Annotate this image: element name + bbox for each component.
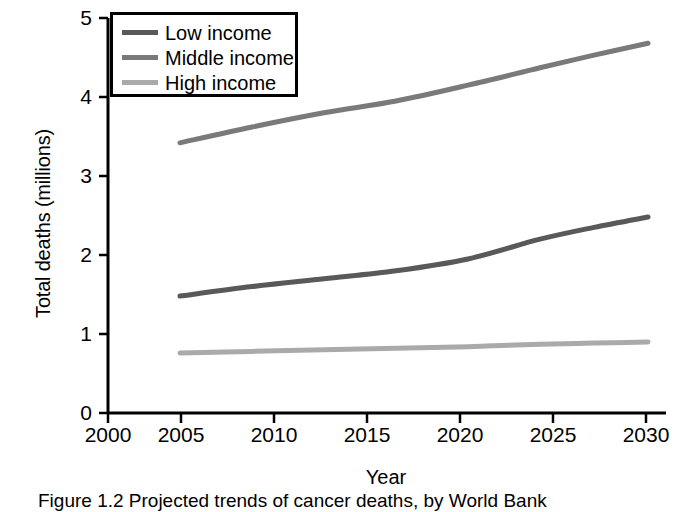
y-tick-label-1: 1 xyxy=(52,323,92,344)
x-tick-label-2000: 2000 xyxy=(68,424,148,445)
x-tick-label-2030: 2030 xyxy=(606,424,686,445)
series-line-high-income xyxy=(180,342,648,353)
legend-swatch-high-income xyxy=(122,80,158,85)
x-axis-title: Year xyxy=(108,466,664,489)
legend-item-low-income: Low income xyxy=(122,20,295,45)
y-tick-label-5: 5 xyxy=(52,7,92,28)
x-tick-label-2020: 2020 xyxy=(420,424,500,445)
x-tick-label-2025: 2025 xyxy=(513,424,593,445)
chart-legend: Low income Middle income High income xyxy=(110,12,298,97)
y-axis-title: Total deaths (millions) xyxy=(32,59,55,389)
y-tick-label-3: 3 xyxy=(52,165,92,186)
legend-label-low-income: Low income xyxy=(165,23,272,43)
figure-caption: Figure 1.2 Projected trends of cancer de… xyxy=(38,489,678,512)
legend-label-high-income: High income xyxy=(165,73,276,93)
y-tick-label-4: 4 xyxy=(52,86,92,107)
x-tick-label-2015: 2015 xyxy=(327,424,407,445)
series-line-low-income xyxy=(180,217,648,296)
legend-label-middle-income: Middle income xyxy=(165,48,294,68)
y-tick-label-2: 2 xyxy=(52,244,92,265)
legend-item-high-income: High income xyxy=(122,70,295,95)
legend-swatch-middle-income xyxy=(122,55,158,60)
legend-item-middle-income: Middle income xyxy=(122,45,295,70)
x-tick-label-2005: 2005 xyxy=(141,424,221,445)
y-tick-label-0: 0 xyxy=(52,402,92,423)
legend-swatch-low-income xyxy=(122,30,158,35)
x-tick-label-2010: 2010 xyxy=(234,424,314,445)
